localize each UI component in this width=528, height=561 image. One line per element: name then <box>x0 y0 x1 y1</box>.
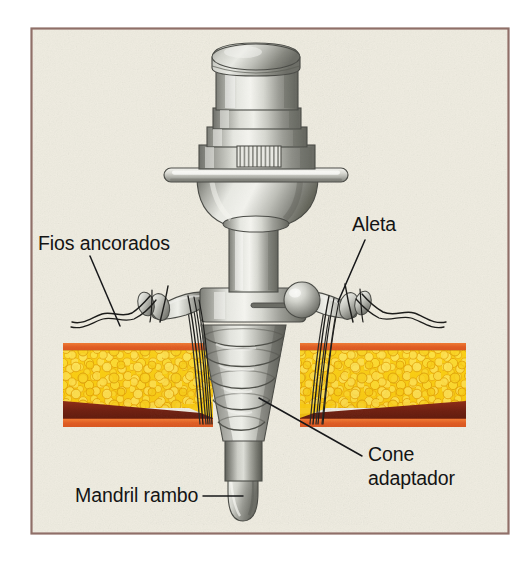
label-fios-ancorados: Fios ancorados <box>38 232 170 254</box>
illustration-figure: Fios ancorados Aleta Cone adaptador Mand… <box>0 0 528 561</box>
label-aleta: Aleta <box>352 213 396 235</box>
label-cone-adaptador-line-1: Cone <box>368 443 414 465</box>
fixation-device <box>135 40 373 525</box>
illustration-canvas: Fios ancorados Aleta Cone adaptador Mand… <box>0 0 528 561</box>
label-mandril-rambo: Mandril rambo <box>75 484 199 506</box>
device-grain <box>150 40 370 525</box>
label-cone-adaptador-line-2: adaptador <box>368 467 456 489</box>
